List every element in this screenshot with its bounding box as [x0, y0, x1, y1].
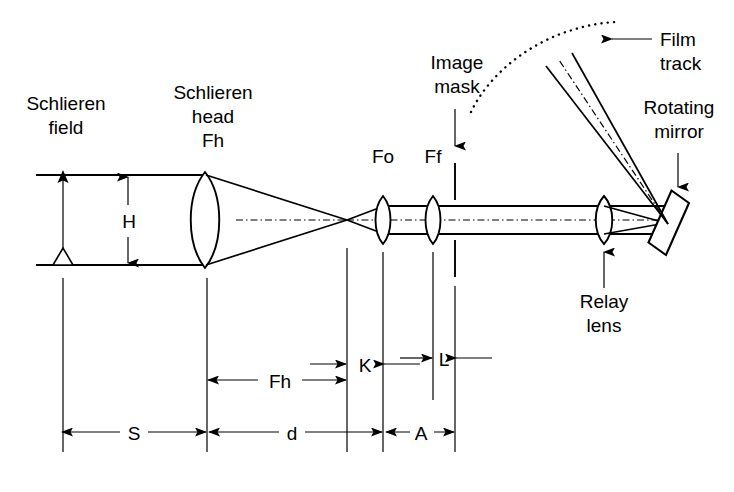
dimension-l-label: L: [439, 349, 450, 370]
schlieren-field-object-arrow: [53, 170, 73, 265]
image-mask-line1: Image: [431, 52, 484, 73]
dimension-fh: Fh: [208, 366, 346, 394]
label-lens-fo: Fo: [372, 146, 394, 167]
schlieren-optical-diagram: H: [0, 0, 734, 492]
dimension-s-label: S: [128, 423, 141, 444]
ray-upper-converging: [206, 175, 347, 220]
field-lens-ff-body: [426, 196, 441, 244]
diagram-canvas: H: [0, 0, 734, 492]
relay-lens: [596, 196, 613, 244]
dimension-h-label: H: [122, 211, 136, 232]
field-arrow-head-bottom-open: [53, 248, 73, 265]
rotating-mirror-line2: mirror: [654, 121, 704, 142]
objective-lens-fo-body: [376, 196, 391, 244]
dimension-fh-label: Fh: [269, 371, 291, 392]
dimension-h: H: [116, 177, 142, 263]
relay-lens-body: [596, 196, 613, 244]
label-film-track: Film track: [660, 29, 702, 74]
field-lens-ff: [426, 196, 441, 244]
dimension-d: d: [209, 418, 382, 446]
dimension-a-label: A: [415, 423, 428, 444]
lens-ff-label: Ff: [425, 146, 443, 167]
schlieren-head-line2: head: [192, 106, 234, 127]
image-mask-line2: mask: [434, 76, 480, 97]
lens-fo-label: Fo: [372, 146, 394, 167]
label-relay-lens: Relay lens: [580, 291, 629, 336]
label-lens-ff: Ff: [425, 146, 443, 167]
dimension-l: L: [400, 349, 492, 370]
label-rotating-mirror: Rotating mirror: [644, 97, 715, 142]
label-image-mask: Image mask: [431, 52, 484, 97]
dimension-d-label: d: [287, 423, 298, 444]
label-schlieren-field: Schlieren field: [26, 93, 105, 138]
rotating-mirror-line1: Rotating: [644, 97, 715, 118]
ray-lower-converging: [206, 220, 347, 265]
label-schlieren-head: Schlieren head Fh: [173, 82, 252, 151]
film-track-line2: track: [660, 53, 702, 74]
reflected-beam-axis: [559, 60, 668, 224]
schlieren-field-line1: Schlieren: [26, 93, 105, 114]
dimension-k-label: K: [359, 355, 372, 376]
dimension-s: S: [62, 418, 206, 446]
schlieren-field-line2: field: [49, 117, 84, 138]
dimension-a: A: [386, 418, 454, 446]
film-track-line1: Film: [660, 29, 696, 50]
relay-lens-line2: lens: [587, 315, 622, 336]
schlieren-head-line1: Schlieren: [173, 82, 252, 103]
objective-lens-fo: [376, 196, 391, 244]
relay-lens-line1: Relay: [580, 291, 629, 312]
schlieren-head-lens-body: [191, 172, 220, 268]
schlieren-head-lens: [191, 172, 220, 268]
schlieren-head-line3: Fh: [202, 130, 224, 151]
